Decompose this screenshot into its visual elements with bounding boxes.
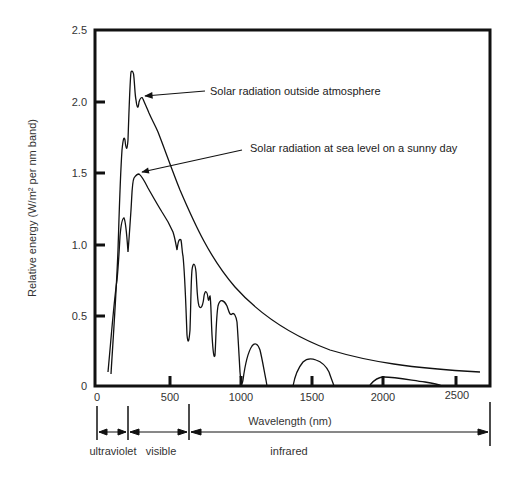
- annotation-outside-atmosphere: Solar radiation outside atmosphere: [210, 85, 381, 97]
- arrow-sea-level: [142, 150, 242, 172]
- svg-text:0: 0: [94, 391, 100, 403]
- region-label-visible: visible: [146, 445, 177, 457]
- svg-text:1500: 1500: [300, 391, 324, 403]
- region-label-infrared: infrared: [270, 445, 307, 457]
- region-arrow-visible: [130, 429, 187, 435]
- svg-text:0: 0: [81, 380, 87, 392]
- x-axis-tick-labels: 0 500 1000 1500 2000 2500: [94, 389, 469, 403]
- region-label-ultraviolet: ultraviolet: [89, 445, 136, 457]
- region-arrow-ultraviolet: [99, 429, 126, 435]
- region-arrow-infrared: [191, 429, 488, 435]
- svg-text:1000: 1000: [229, 391, 253, 403]
- svg-text:0.5: 0.5: [72, 310, 87, 322]
- svg-text:2.0: 2.0: [72, 96, 87, 108]
- svg-text:1.0: 1.0: [72, 239, 87, 251]
- arrow-outside-atmosphere: [145, 91, 205, 96]
- svg-text:2.5: 2.5: [72, 24, 87, 36]
- y-axis-tick-labels: 0 0.5 1.0 1.5 2.0 2.5: [72, 24, 87, 392]
- y-axis-title: Relative energy (W/m² per nm band): [26, 119, 38, 297]
- svg-text:500: 500: [161, 391, 179, 403]
- svg-text:2000: 2000: [371, 391, 395, 403]
- svg-text:1.5: 1.5: [72, 167, 87, 179]
- x-axis-title: Wavelength (nm): [248, 415, 331, 427]
- annotation-sea-level: Solar radiation at sea level on a sunny …: [250, 142, 458, 154]
- series-outside-atmosphere: [111, 71, 480, 374]
- svg-text:2500: 2500: [445, 389, 469, 401]
- solar-spectrum-chart: 0 0.5 1.0 1.5 2.0 2.5 0 500 1000 1500 20…: [0, 0, 520, 481]
